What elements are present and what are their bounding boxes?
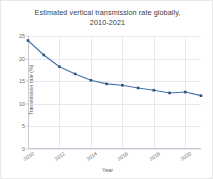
y-tick-label: 15 — [19, 78, 25, 84]
y-tick-mark — [26, 36, 28, 37]
y-tick-mark — [26, 81, 28, 82]
data-point-marker — [184, 91, 187, 94]
data-point-marker — [137, 87, 140, 90]
x-tick-label: 2014 — [85, 151, 98, 162]
y-tick-label: 5 — [22, 123, 25, 129]
chart-figure: Estimated vertical transmission rate glo… — [0, 0, 213, 179]
y-tick-label: 25 — [19, 33, 25, 39]
data-point-marker — [105, 83, 108, 86]
x-tick-label: 2010 — [22, 151, 35, 162]
data-point-marker — [121, 84, 124, 87]
gridline-horizontal — [28, 149, 201, 150]
data-point-marker — [74, 73, 77, 76]
x-axis-title: Year — [1, 167, 213, 173]
y-tick-label: 20 — [19, 56, 25, 62]
chart-title: Estimated vertical transmission rate glo… — [1, 8, 213, 28]
data-point-marker — [27, 39, 30, 42]
series-polyline — [28, 41, 201, 96]
x-tick-label: 2016 — [116, 151, 129, 162]
data-point-marker — [42, 54, 45, 57]
y-tick-mark — [26, 58, 28, 59]
data-point-marker — [153, 89, 156, 92]
x-tick-label: 2020 — [179, 151, 192, 162]
y-tick-mark — [26, 149, 28, 150]
chart-title-line-2: 2010-2021 — [1, 18, 213, 28]
chart-title-line-1: Estimated vertical transmission rate glo… — [1, 8, 213, 18]
y-tick-mark — [26, 126, 28, 127]
x-tick-label: 2018 — [148, 151, 161, 162]
data-point-marker — [90, 79, 93, 82]
data-point-marker — [58, 65, 61, 68]
plot-area: 0510152025201020122014201620182020 — [28, 36, 201, 149]
y-tick-label: 10 — [19, 101, 25, 107]
data-point-marker — [168, 92, 171, 95]
data-point-marker — [200, 94, 203, 97]
y-tick-label: 0 — [22, 146, 25, 152]
x-tick-label: 2012 — [54, 151, 67, 162]
data-series-line — [28, 36, 201, 149]
y-tick-mark — [26, 103, 28, 104]
